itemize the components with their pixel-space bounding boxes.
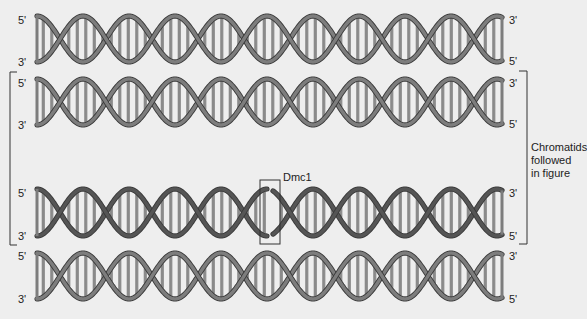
h2-left-bottom-label: 3' (18, 119, 26, 131)
dna-helix-2 (37, 79, 502, 125)
dmc1-label: Dmc1 (283, 171, 312, 183)
strand-b (37, 253, 502, 299)
h4-left-bottom-label: 3' (18, 293, 26, 305)
h4-right-top-label: 3' (509, 250, 517, 262)
bracket-note-line-1: Chromatids (531, 141, 587, 153)
h1-left-top-label: 5' (18, 14, 26, 26)
h3-right-bottom-label: 5' (509, 230, 517, 242)
h3-right-top-label: 3' (509, 187, 517, 199)
h2-right-bottom-label: 5' (509, 118, 517, 130)
bracket-note-line-3: in figure (531, 167, 570, 179)
h1-right-top-label: 3' (509, 14, 517, 26)
h2-right-top-label: 3' (509, 77, 517, 89)
h4-left-top-label: 5' (18, 250, 26, 262)
h1-right-bottom-label: 5' (509, 55, 517, 67)
bracket-note-line-2: followed (531, 154, 571, 166)
right-bracket (519, 71, 527, 244)
dna-helix-3 (37, 189, 502, 236)
strand-b (37, 16, 502, 62)
left-bracket (10, 72, 17, 245)
dna-diagram: Dmc1 Chromatids followed in figure 5' 3'… (0, 0, 587, 319)
dna-helix-4 (37, 253, 502, 299)
h3-left-top-label: 5' (18, 187, 26, 199)
h4-right-bottom-label: 5' (509, 293, 517, 305)
h2-left-top-label: 5' (18, 77, 26, 89)
h1-left-bottom-label: 3' (18, 56, 26, 68)
dna-helix-1 (37, 16, 502, 62)
strand-b (37, 79, 502, 125)
h3-left-bottom-label: 3' (18, 230, 26, 242)
